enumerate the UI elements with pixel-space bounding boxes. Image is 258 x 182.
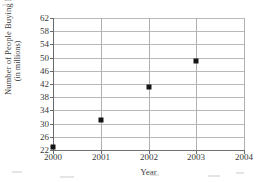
x-tick-label: 2003 [187, 152, 205, 162]
data-point [194, 58, 199, 63]
y-tick-label: 46 [40, 66, 49, 76]
scatter-chart: Number of People Buying Books Online (in… [0, 0, 258, 182]
data-point [146, 85, 151, 90]
y-tick-label: 50 [40, 53, 49, 63]
y-tick-label: 38 [40, 92, 49, 102]
y-tick-label: 62 [40, 13, 49, 23]
x-gridline [196, 18, 197, 150]
y-tick-label: 30 [40, 119, 49, 129]
scan-artifact [150, 174, 159, 176]
y-tick-label: 26 [40, 132, 49, 142]
y-tick-label: 58 [40, 26, 49, 36]
x-gridline [244, 18, 245, 150]
y-tick-label: 34 [40, 105, 49, 115]
data-point [98, 118, 103, 123]
scan-artifact [236, 172, 244, 174]
x-gridline [101, 18, 102, 150]
y-axis-units-label: (in millions) [13, 11, 25, 111]
scan-artifact [60, 176, 74, 178]
scan-artifact [208, 175, 220, 177]
data-point [51, 144, 56, 149]
x-tick-label: 2004 [235, 152, 253, 162]
x-tick-label: 2000 [44, 152, 62, 162]
y-tick-label: 42 [40, 79, 49, 89]
scan-artifact [2, 4, 8, 6]
plot-area: 2226303438424650545862200020012002200320… [53, 18, 244, 150]
y-tick-label: 54 [40, 39, 49, 49]
scan-artifact [12, 171, 22, 173]
x-tick-label: 2002 [140, 152, 158, 162]
x-tick-label: 2001 [92, 152, 110, 162]
x-gridline [53, 18, 54, 150]
